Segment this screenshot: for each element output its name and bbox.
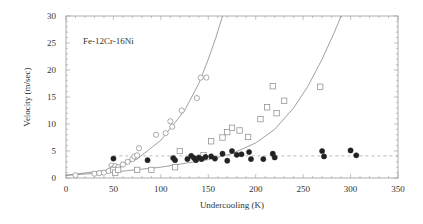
y-tick-labels: 051015202530 [47,11,57,183]
filled-circle-point [111,156,116,161]
y-axis-title: Velocity (m/sec) [22,67,32,126]
open-circle-point [194,95,199,100]
open-circle-point [92,171,97,176]
open-circle-point [136,146,141,151]
velocity-vs-undercooling-chart: 051015202530 050100150200250300350 Fe-12… [0,0,423,224]
open-square-point [115,167,120,172]
open-square-point [172,165,177,170]
filled-circle-point [261,157,266,162]
open-circle-point [120,162,125,167]
open-circle-point [179,108,184,113]
x-tick-label: 200 [249,184,263,194]
open-square-point [177,148,182,153]
open-square-point [149,167,154,172]
data-points [73,75,359,178]
open-square-point [281,98,286,103]
filled-circle-point [321,154,326,159]
open-circle-point [198,75,203,80]
open-square-point [264,105,269,110]
filled-circle-point [212,156,217,161]
filled-circle-point [234,152,239,157]
open-square-point [134,167,139,172]
open-square-point [318,84,323,89]
open-circle-point [168,119,173,124]
y-tick-label: 10 [47,119,57,129]
filled-circle-point [172,158,177,163]
open-square-point [208,139,213,144]
open-circle-point [135,153,140,158]
x-tick-label: 300 [344,184,358,194]
filled-circle-point [239,152,244,157]
open-circle-point [170,124,175,129]
y-tick-label: 5 [52,146,57,156]
y-tick-label: 30 [47,11,57,21]
filled-circle-point [320,148,325,153]
open-square-point [237,128,242,133]
x-tick-labels: 050100150200250300350 [64,184,406,194]
open-square-point [270,84,275,89]
open-square-point [258,116,263,121]
x-tick-label: 250 [296,184,310,194]
filled-circle-point [225,158,230,163]
filled-circle-point [354,153,359,158]
open-circle-point [73,173,78,178]
open-square-point [220,135,225,140]
x-tick-label: 100 [154,184,168,194]
filled-circle-point [272,155,277,160]
y-tick-label: 25 [47,38,57,48]
open-circle-point [204,75,209,80]
filled-circle-point [203,154,208,159]
x-tick-label: 50 [109,184,119,194]
alloy-annotation: Fe-12Cr-16Ni [83,36,134,46]
open-circle-point [125,159,130,164]
x-tick-label: 350 [391,184,405,194]
filled-circle-point [145,158,150,163]
filled-circle-point [220,151,225,156]
filled-circle-point [348,148,353,153]
open-square-point [245,134,250,139]
open-circle-point [154,132,159,137]
open-circle-point [97,171,102,176]
y-tick-label: 20 [47,65,57,75]
open-square-point [274,111,279,116]
filled-circle-point [229,148,234,153]
open-square-point [229,125,234,130]
x-tick-label: 0 [64,184,69,194]
open-circle-point [163,131,168,136]
filled-circle-point [248,157,253,162]
x-axis-title: Undercooling (K) [200,200,264,210]
x-tick-label: 150 [202,184,216,194]
filled-circle-point [246,149,251,154]
y-tick-label: 15 [47,92,57,102]
y-tick-label: 0 [52,173,57,183]
